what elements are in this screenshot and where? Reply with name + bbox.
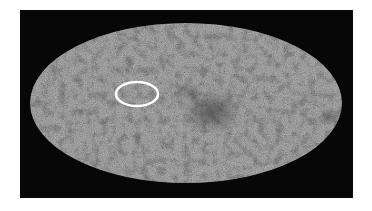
sky-map bbox=[30, 23, 342, 183]
sky-map-figure bbox=[0, 0, 372, 211]
